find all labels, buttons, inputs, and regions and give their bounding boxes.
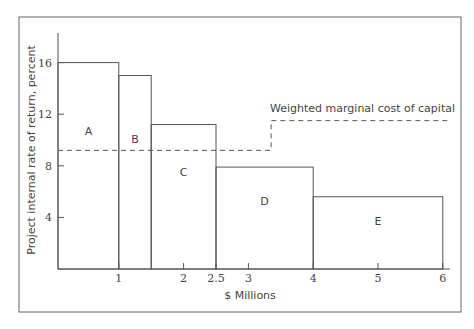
x-tick-label: 1 (115, 272, 122, 285)
bar-d (216, 167, 313, 269)
wmcc-label: Weighted marginal cost of capital (270, 102, 455, 115)
y-tick-label: 12 (38, 108, 52, 121)
x-tick-label: 5 (375, 272, 382, 285)
bar-c (151, 125, 216, 269)
bar-label: A (85, 125, 93, 138)
bar-label: C (180, 166, 188, 179)
wmcc-line (58, 121, 449, 151)
y-tick-label: 4 (45, 211, 52, 224)
x-tick-label: 3 (245, 272, 252, 285)
labels: 481216122.53456ABCDEWeighted marginal co… (25, 45, 455, 302)
x-tick-label: 4 (310, 272, 317, 285)
y-axis-label: Project internal rate of return, percent (25, 45, 38, 255)
bar-b (119, 76, 151, 270)
axes (58, 33, 450, 269)
y-tick-label: 16 (38, 57, 52, 70)
x-tick-label: 2.5 (207, 272, 225, 285)
wmcc-dashed-line (58, 121, 449, 151)
x-tick-label: 6 (439, 272, 446, 285)
x-tick-label: 2 (180, 272, 187, 285)
bar-label: B (131, 133, 139, 146)
x-axis-label: $ Millions (224, 289, 276, 302)
bar-a (58, 63, 119, 269)
bar-e (313, 197, 443, 269)
bar-label: D (260, 195, 268, 208)
y-tick-label: 8 (45, 160, 52, 173)
bars (58, 63, 443, 269)
bar-label: E (375, 215, 382, 228)
chart: 481216122.53456ABCDEWeighted marginal co… (0, 0, 474, 329)
chart-frame (19, 17, 461, 312)
